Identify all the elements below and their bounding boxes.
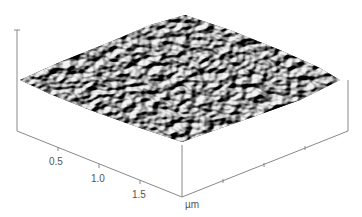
y-axis bbox=[182, 131, 348, 197]
unit-label: µm bbox=[185, 199, 199, 210]
x-tick-label: 1.5 bbox=[132, 189, 146, 200]
x-tick-label: 1.0 bbox=[91, 173, 105, 184]
afm-surface-figure: 0.5 1.0 1.5 µm bbox=[0, 0, 362, 217]
topography-surface bbox=[15, 12, 345, 147]
x-tick-label: 0.5 bbox=[49, 156, 63, 167]
surface-plot bbox=[0, 0, 362, 217]
